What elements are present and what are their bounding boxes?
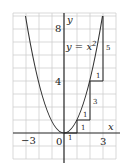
equation-exponent: 2 bbox=[91, 40, 97, 48]
step-triangle-1 bbox=[64, 120, 77, 133]
tick-label-3: 3 bbox=[100, 136, 106, 147]
tick-label-8: 8 bbox=[55, 23, 61, 34]
run-label-2: 1 bbox=[83, 111, 87, 119]
run-label-1: 1 bbox=[81, 124, 85, 132]
y-axis-label: y bbox=[66, 14, 73, 25]
equation-text: y = x bbox=[65, 41, 92, 52]
tick-label-1: 1 bbox=[68, 134, 72, 142]
tick-label-0: 0 bbox=[56, 136, 62, 147]
tick-label-neg3: −3 bbox=[21, 135, 36, 146]
rise-label-3: 5 bbox=[106, 44, 110, 52]
x-axis-label: x bbox=[108, 121, 114, 132]
tick-label-4: 4 bbox=[55, 76, 61, 87]
equation-label: y = x2 bbox=[65, 40, 97, 52]
parabola-diagram: y x 8 4 −3 0 1 3 y = x2 1 1 1 3 1 5 bbox=[0, 0, 124, 166]
rise-label-2: 3 bbox=[93, 98, 97, 106]
run-label-3: 1 bbox=[96, 72, 100, 80]
